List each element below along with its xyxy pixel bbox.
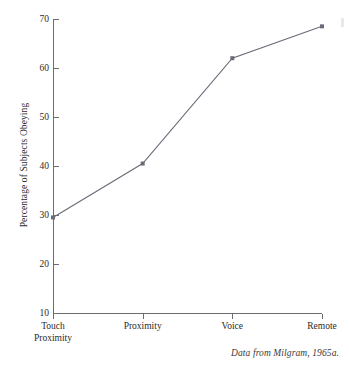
x-tick-label-proximity: Proximity [124, 321, 162, 333]
x-tick-label-touch-proximity: TouchProximity [34, 321, 72, 344]
y-tick-label: 60 [40, 62, 50, 74]
y-tick-label: 50 [40, 111, 50, 123]
series-markers [51, 24, 324, 219]
x-axis-line [53, 313, 322, 314]
y-axis-label: Percentage of Subjects Obeying [19, 75, 29, 255]
x-tick-label-line: Touch [41, 321, 65, 331]
data-series-line [53, 19, 322, 313]
y-tick-label: 10 [40, 307, 50, 319]
y-tick-label: 70 [40, 13, 50, 25]
data-point-proximity [141, 162, 145, 166]
x-tick-label-line: Proximity [124, 321, 162, 331]
x-tick-label-line: Voice [222, 321, 243, 331]
x-tick-mark [143, 314, 144, 319]
x-tick-mark [53, 314, 54, 319]
figure-caption: Data from Milgram, 1965a. [0, 348, 339, 358]
figure-milgram-obedience: Percentage of Subjects Obeying 706050403… [0, 0, 349, 369]
y-tick-label: 30 [40, 209, 50, 221]
series-polyline [53, 26, 322, 217]
x-tick-mark [322, 314, 323, 319]
x-tick-label-voice: Voice [222, 321, 243, 333]
x-tick-label-remote: Remote [307, 321, 337, 333]
y-tick-label: 20 [40, 258, 50, 270]
y-tick-label: 40 [40, 160, 50, 172]
x-tick-label-line: Remote [307, 321, 337, 331]
x-tick-mark [232, 314, 233, 319]
x-tick-label-line: Proximity [34, 333, 72, 345]
data-point-voice [230, 56, 234, 60]
y-tick-mark [54, 313, 59, 314]
data-point-touch-proximity [51, 215, 55, 219]
data-point-remote [320, 24, 324, 28]
plot-area: 70605040302010 TouchProximityProximityVo… [53, 19, 322, 313]
scan-artifact [341, 18, 344, 27]
